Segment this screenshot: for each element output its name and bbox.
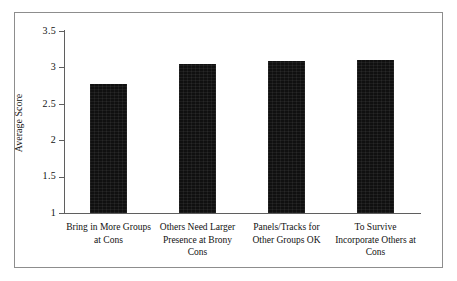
y-tick-mark-2	[59, 140, 64, 141]
y-tick-label-2-5: 2.5	[14, 99, 56, 109]
bar-0[interactable]	[90, 84, 127, 213]
x-category-label-0: Bring in More Groupsat Cons	[64, 221, 153, 246]
y-tick-mark-4	[59, 67, 64, 68]
x-category-label-1: Others Need LargerPresence at BronyCons	[153, 221, 242, 259]
y-tick-label-1-5: 1.5	[14, 171, 56, 181]
bar-2[interactable]	[268, 61, 305, 213]
y-tick-mark-5	[59, 31, 64, 32]
x-category-label-line: Bring in More Groups	[64, 221, 153, 234]
x-category-label-line: Presence at Brony	[153, 234, 242, 247]
y-tick-label-3-5: 3.5	[14, 26, 56, 36]
x-category-label-3: To SurviveIncorporate Others atCons	[331, 221, 420, 259]
x-category-label-line: Cons	[331, 246, 420, 259]
x-category-label-line: at Cons	[64, 234, 153, 247]
y-axis-line	[64, 30, 65, 214]
y-tick-label-1: 1	[14, 208, 56, 218]
x-category-label-line: Cons	[153, 246, 242, 259]
y-tick-mark-3	[59, 104, 64, 105]
y-tick-mark-1	[59, 177, 64, 178]
y-tick-label-2: 2	[14, 135, 56, 145]
plot-area: Average Score 1 1.5 2 2.5 3 3.5	[0, 0, 457, 281]
bar-1[interactable]	[179, 64, 216, 213]
figure: Average Score 1 1.5 2 2.5 3 3.5	[0, 0, 457, 281]
x-category-label-2: Panels/Tracks forOther Groups OK	[242, 221, 331, 246]
x-category-label-line: Panels/Tracks for	[242, 221, 331, 234]
x-category-label-line: Incorporate Others at	[331, 234, 420, 247]
x-axis-line	[64, 213, 421, 214]
y-tick-label-3: 3	[14, 62, 56, 72]
x-category-label-line: To Survive	[331, 221, 420, 234]
x-category-label-line: Others Need Larger	[153, 221, 242, 234]
y-tick-mark-0	[59, 213, 64, 214]
bar-3[interactable]	[357, 60, 394, 213]
y-axis-title: Average Score	[14, 78, 24, 168]
x-category-label-line: Other Groups OK	[242, 234, 331, 247]
